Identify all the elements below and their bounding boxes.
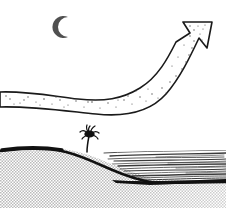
palm-trunk xyxy=(87,136,89,152)
crescent-moon xyxy=(52,16,68,38)
arrow-outline xyxy=(0,22,212,115)
palm-tree xyxy=(80,125,99,152)
rising-arrow xyxy=(0,17,212,114)
illustration-svg xyxy=(0,0,226,208)
illustration-canvas: Night shoreline with rising stippled arr… xyxy=(0,0,226,208)
moon-crescent xyxy=(52,16,68,38)
